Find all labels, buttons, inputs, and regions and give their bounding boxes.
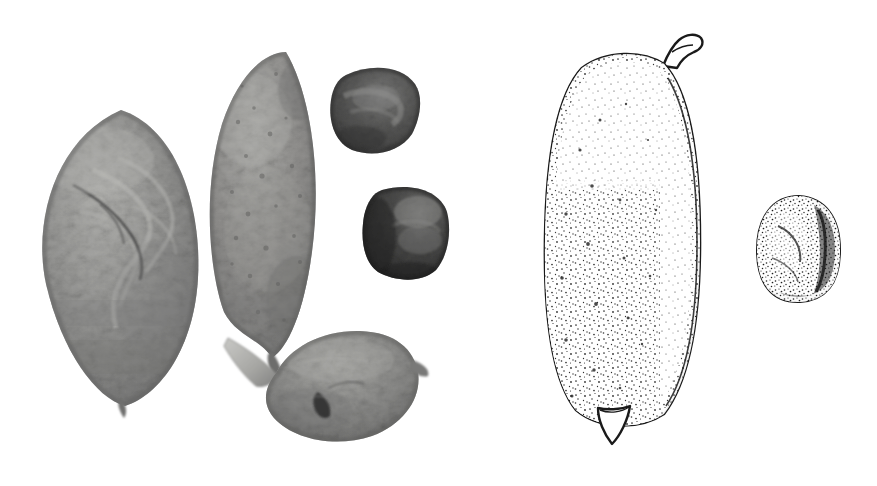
botanical-plate: Seed and pod plate xyxy=(0,0,877,486)
plate-canvas xyxy=(0,0,877,486)
